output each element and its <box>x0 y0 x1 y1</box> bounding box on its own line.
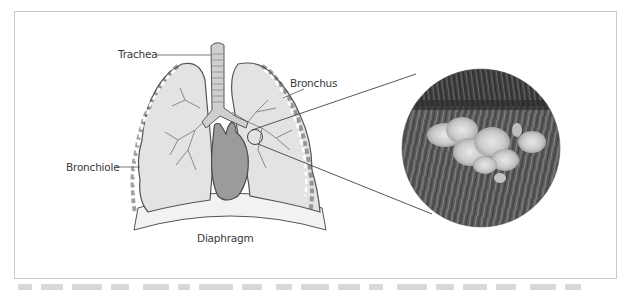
diaphragm-label: Diaphragm <box>197 232 254 244</box>
bronchus-label: Bronchus <box>290 77 337 89</box>
clipped-caption <box>18 284 618 290</box>
magnified-micrograph <box>400 66 565 231</box>
lungs-diagram <box>0 0 626 290</box>
trachea-label: Trachea <box>118 48 158 60</box>
left-lung <box>133 63 213 212</box>
bronchiole-label: Bronchiole <box>66 161 120 173</box>
